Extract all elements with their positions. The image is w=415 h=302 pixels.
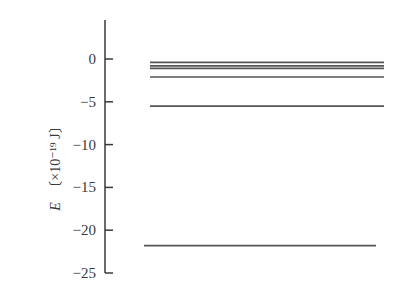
axis-symbol: E xyxy=(48,202,63,212)
y-axis: 0−5−10−15−20−25 xyxy=(73,20,113,281)
tick-label: 0 xyxy=(89,51,97,67)
axis-unit: 〔×10⁻¹⁹ J〕 xyxy=(48,119,63,194)
tick-label: −25 xyxy=(73,265,96,281)
svg-text:E 〔×10⁻¹⁹ J〕: E 〔×10⁻¹⁹ J〕 xyxy=(48,119,63,211)
axis-ticks: 0−5−10−15−20−25 xyxy=(73,51,113,281)
tick-label: −20 xyxy=(73,222,96,238)
axis-title: E 〔×10⁻¹⁹ J〕 xyxy=(48,119,63,211)
tick-label: −10 xyxy=(73,137,96,153)
energy-levels xyxy=(144,62,384,245)
tick-label: −15 xyxy=(73,179,96,195)
energy-level-diagram: 0−5−10−15−20−25 E 〔×10⁻¹⁹ J〕 xyxy=(0,0,415,302)
tick-label: −5 xyxy=(80,94,96,110)
